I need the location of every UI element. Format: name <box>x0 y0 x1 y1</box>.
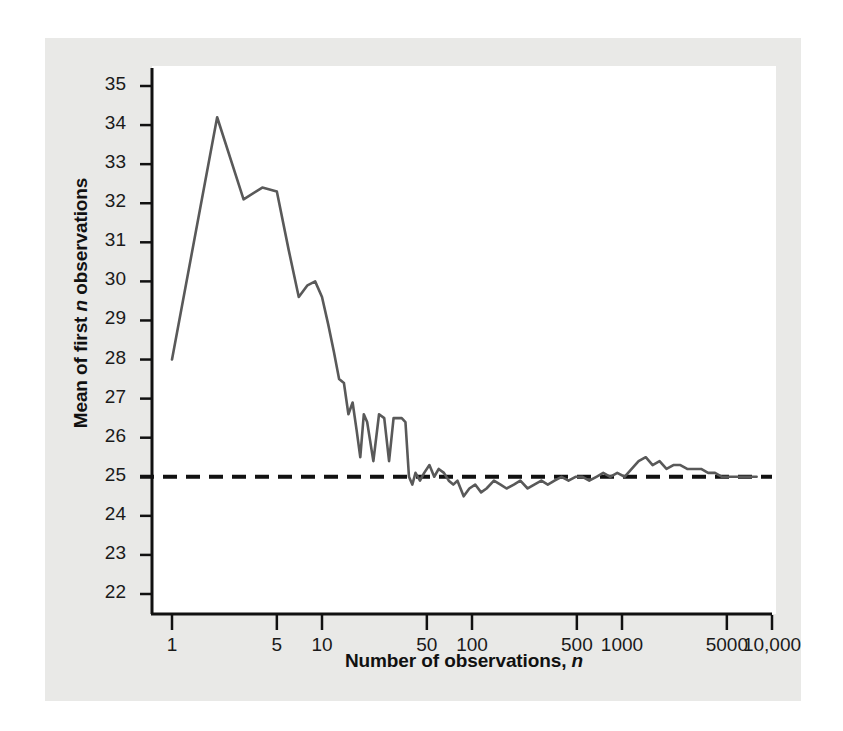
y-tick-label: 23 <box>82 542 126 564</box>
y-tick-label: 22 <box>82 581 126 603</box>
x-axis-title: Number of observations, n <box>152 650 776 672</box>
y-tick-label: 34 <box>82 112 126 134</box>
data-series-group <box>172 117 757 496</box>
chart-figure: 2223242526272829303132333435 15105010050… <box>0 0 843 731</box>
axes-group <box>140 68 772 630</box>
y-tick-label: 24 <box>82 503 126 525</box>
chart-svg <box>0 0 843 731</box>
y-axis-title: Mean of first n observations <box>70 138 92 468</box>
y-tick-label: 35 <box>82 73 126 95</box>
series-line <box>172 117 757 496</box>
figure-page: 2223242526272829303132333435 15105010050… <box>0 0 843 731</box>
